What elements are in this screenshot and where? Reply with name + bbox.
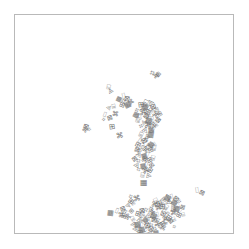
scatter-point: ⌘ [81, 126, 89, 134]
scatter-point: ⌸ [180, 212, 185, 219]
scatter-point: ⨹ [107, 87, 115, 95]
scatter-point: ⌘ [111, 110, 118, 117]
scatter-point: ▦ [140, 179, 148, 187]
scatter-plot-area: ⌗⌘⊞⌸⨹▦⌷⊠⌗⌘⊞⌸⨹▦⌷⊠⌗⌘⊞⌸⨹▦⌷⊠⌗⌘⊞⌸⨹▦⌷⊠⌗⌘⊞⌸⨹▦⌷⊠… [15, 15, 233, 233]
scatter-point: ⊞ [109, 123, 116, 131]
plot-frame: ⌗⌘⊞⌸⨹▦⌷⊠⌗⌘⊞⌸⨹▦⌷⊠⌗⌘⊞⌸⨹▦⌷⊠⌗⌘⊞⌸⨹▦⌷⊠⌗⌘⊞⌸⨹▦⌷⊠… [14, 14, 234, 234]
scatter-point: ⌗ [172, 224, 177, 231]
scatter-point: ⌘ [115, 131, 124, 140]
scatter-point: ▦ [152, 229, 160, 233]
screenshot-root: ⌗⌘⊞⌸⨹▦⌷⊠⌗⌘⊞⌸⨹▦⌷⊠⌗⌘⊞⌸⨹▦⌷⊠⌗⌘⊞⌸⨹▦⌷⊠⌗⌘⊞⌸⨹▦⌷⊠… [0, 0, 249, 249]
